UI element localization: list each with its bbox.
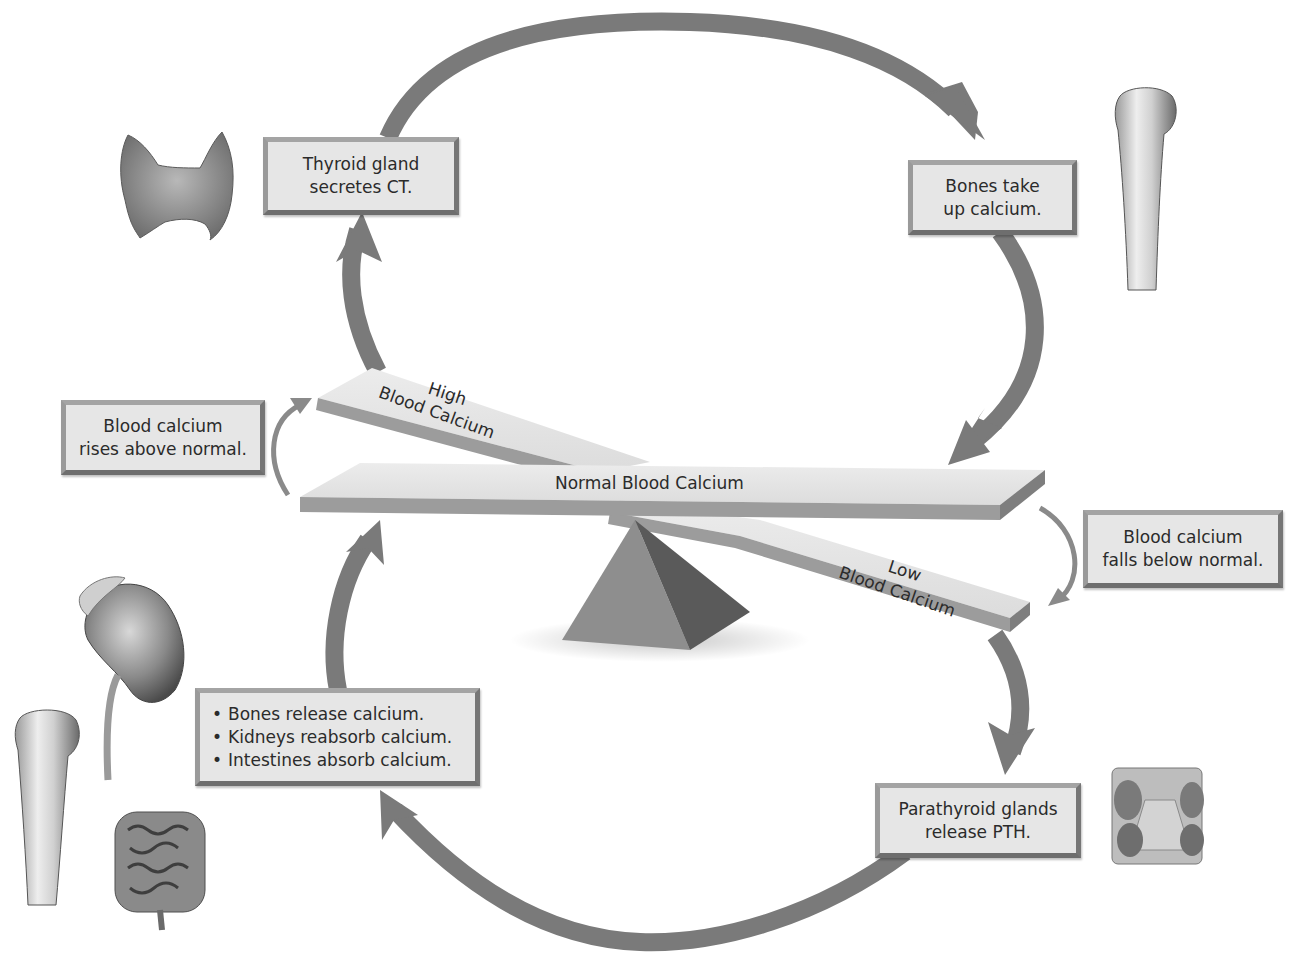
thyroid-gland-illustration: [121, 132, 233, 240]
parathyroid-glands-illustration: [1112, 768, 1204, 864]
box-line: release PTH.: [898, 821, 1057, 844]
blood-calcium-rises-box: Blood calcium rises above normal.: [61, 400, 265, 475]
parathyroid-release-pth-box: Parathyroid glands release PTH.: [875, 783, 1081, 858]
box-line: Blood calcium: [79, 415, 247, 438]
normal-blood-calcium-label: Normal Blood Calcium: [555, 473, 744, 493]
calcium-release-list-box: Bones release calcium. Kidneys reabsorb …: [195, 688, 480, 786]
kidney-illustration: [79, 577, 184, 780]
arrow-release-to-normal: [335, 520, 384, 690]
intestines-illustration: [115, 812, 205, 930]
thyroid-secretes-ct-box: Thyroid gland secretes CT.: [263, 137, 459, 215]
list-item: Bones release calcium.: [212, 703, 452, 726]
list-item: Kidneys reabsorb calcium.: [212, 726, 452, 749]
arrow-rises-to-high: [274, 398, 312, 495]
box-line: up calcium.: [943, 198, 1041, 221]
arrow-bones-to-normal: [948, 232, 1035, 465]
blood-calcium-falls-box: Blood calcium falls below normal.: [1083, 510, 1283, 588]
box-line: Blood calcium: [1103, 526, 1264, 549]
box-line: secretes CT.: [303, 176, 420, 199]
bone-illustration-bottom: [15, 710, 79, 905]
arrow-parathyroid-to-release: [380, 790, 905, 942]
bone-illustration-top: [1115, 88, 1176, 290]
box-line: Bones take: [943, 175, 1041, 198]
arrow-thyroid-to-bones: [388, 22, 985, 140]
list-item: Intestines absorb calcium.: [212, 749, 452, 772]
arrow-normal-to-low: [1040, 508, 1075, 606]
box-line: Parathyroid glands: [898, 798, 1057, 821]
box-line: Thyroid gland: [303, 153, 420, 176]
release-list: Bones release calcium. Kidneys reabsorb …: [212, 703, 452, 772]
arrow-high-to-thyroid: [336, 212, 382, 372]
bones-take-up-calcium-box: Bones take up calcium.: [908, 160, 1077, 235]
arrow-low-to-parathyroid: [988, 635, 1035, 775]
box-line: falls below normal.: [1103, 549, 1264, 572]
box-line: rises above normal.: [79, 438, 247, 461]
